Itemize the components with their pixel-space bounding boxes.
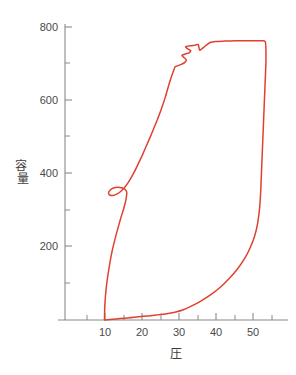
x-tick-label-10: 10 [99, 326, 111, 338]
pv-loop-curve [104, 41, 265, 320]
y-axis-ticks [65, 27, 72, 283]
y-axis-tick-labels: 800 600 400 200 [40, 21, 58, 252]
pressure-volume-loop-chart: 800 600 400 200 10 20 30 40 50 容 量 圧 [0, 0, 296, 375]
x-tick-label-40: 40 [210, 326, 222, 338]
x-axis-title: 圧 [170, 347, 182, 361]
x-tick-label-20: 20 [136, 326, 148, 338]
x-tick-label-30: 30 [173, 326, 185, 338]
y-tick-label-400: 400 [40, 167, 58, 179]
x-axis-tick-labels: 10 20 30 40 50 [99, 326, 259, 338]
x-tick-label-50: 50 [247, 326, 259, 338]
y-tick-label-200: 200 [40, 240, 58, 252]
y-tick-label-800: 800 [40, 21, 58, 33]
y-axis-title: 容 量 [15, 158, 31, 186]
y-tick-label-600: 600 [40, 94, 58, 106]
chart-container: 800 600 400 200 10 20 30 40 50 容 量 圧 [0, 0, 296, 375]
